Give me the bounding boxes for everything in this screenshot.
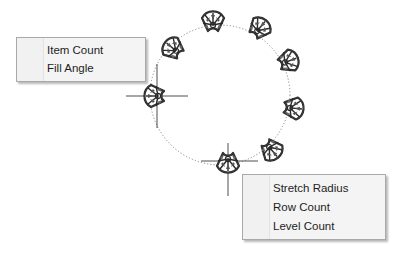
menu-item-row-count[interactable]: Row Count [273,200,330,214]
pattern-item-4[interactable] [276,47,302,74]
pattern-item-1[interactable] [158,33,187,62]
pattern-item-2[interactable] [202,11,224,31]
context-menu-pattern-params: Item Count Fill Angle [16,37,146,82]
menu-item-level-count[interactable]: Level Count [273,219,334,233]
menu-icon-gutter [243,175,270,239]
pattern-item-6[interactable] [257,136,286,165]
menu-item-item-count[interactable]: Item Count [47,43,103,57]
context-menu-grip-params: Stretch Radius Row Count Level Count [242,174,386,240]
pattern-item-3[interactable] [245,13,274,42]
pattern-item-5[interactable] [283,96,304,120]
pattern-item-7[interactable] [217,153,239,173]
menu-icon-gutter [17,38,44,81]
menu-item-stretch-radius[interactable]: Stretch Radius [273,181,348,195]
pattern-item-8[interactable] [144,85,164,107]
menu-item-fill-angle[interactable]: Fill Angle [47,61,94,75]
